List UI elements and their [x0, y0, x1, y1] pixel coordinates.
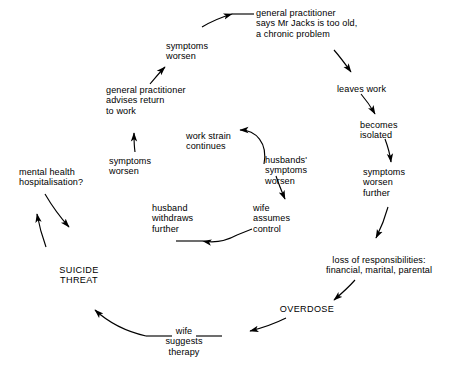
arrow-loss-to-overdose: [334, 280, 355, 300]
node-symptoms-worsen-left: symptoms worsen: [109, 156, 151, 177]
arrow-gp-advises-to-symptoms-top: [150, 67, 165, 84]
node-husbands-symptoms-worsen: husbands' symptoms worsen: [265, 155, 307, 186]
arrow-symptoms-to-gp-too-old: [202, 14, 232, 27]
node-gp-advises-return: general practitioner advises return to w…: [106, 85, 186, 116]
node-wife-suggests-therapy: wife suggests therapy: [165, 326, 202, 357]
node-mental-health-hospitalisation: mental health hospitalisation?: [19, 167, 83, 188]
node-symptoms-worsen-further: symptoms worsen further: [363, 167, 405, 198]
node-wife-assumes-control: wife assumes control: [253, 203, 290, 234]
node-suicide-threat: SUICIDE THREAT: [59, 265, 98, 286]
arrow-hospitalisation-to-symptoms-left: [45, 194, 69, 227]
arrow-symptoms-further-to-loss: [376, 207, 388, 238]
arrow-symptoms-left-to-gp-advises: [134, 133, 135, 152]
node-gp-too-old: general practitioner says Mr Jacks is to…: [256, 8, 357, 39]
diagram-canvas: general practitioner says Mr Jacks is to…: [0, 0, 450, 369]
arrow-strain-to-work-strain-continues: [240, 130, 265, 164]
node-overdose: OVERDOSE: [280, 304, 334, 314]
arrow-therapy-to-suicide-threat: [95, 310, 146, 336]
arrow-overdose-to-therapy: [250, 318, 286, 331]
arrow-leaves-work-to-isolated: [361, 94, 375, 114]
node-loss-of-responsibilities: loss of responsibilities: financial, mar…: [326, 255, 432, 276]
arrow-wife-control-to-husband-withdraws: [203, 235, 237, 242]
arrow-gp-too-old-to-leaves-work: [334, 50, 351, 72]
node-leaves-work: leaves work: [337, 84, 386, 94]
node-symptoms-worsen-top: symptoms worsen: [166, 41, 208, 62]
connector-wife-control: [237, 229, 252, 235]
node-work-strain-continues: work strain continues: [186, 131, 231, 152]
node-becomes-isolated: becomes isolated: [360, 120, 398, 141]
node-husband-withdraws-further: husband withdraws further: [152, 203, 193, 234]
arrow-suicide-to-hospitalisation: [37, 214, 46, 247]
arrow-isolated-to-symptoms-further: [385, 139, 391, 162]
